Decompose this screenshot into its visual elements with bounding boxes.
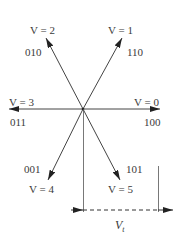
label-v4: V = 4 (29, 183, 54, 195)
vt-subscript: t (122, 225, 124, 234)
label-v1: V = 1 (108, 24, 133, 36)
vector-v4-arrow (48, 109, 83, 180)
code-v0: 100 (144, 116, 161, 128)
voltage-vector-diagram: V = 2 010 V = 1 110 V = 3 011 V = 0 100 … (0, 0, 177, 243)
label-v0: V = 0 (134, 96, 159, 108)
code-v5: 101 (126, 163, 143, 175)
label-v2: V = 2 (30, 24, 55, 36)
origin-point (82, 108, 85, 111)
code-v4: 001 (24, 163, 41, 175)
dimension-label-vt: Vt (115, 218, 125, 234)
code-v2: 010 (25, 46, 42, 58)
vector-v5-arrow (83, 109, 120, 180)
code-v1: 110 (127, 46, 143, 58)
code-v3: 011 (10, 116, 26, 128)
vector-v2-arrow (46, 38, 83, 109)
vector-v1-arrow (83, 38, 122, 109)
label-v5: V = 5 (108, 183, 133, 195)
label-v3: V = 3 (9, 96, 34, 108)
